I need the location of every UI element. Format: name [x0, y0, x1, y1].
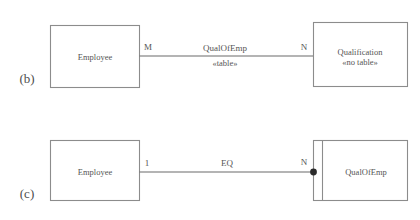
part-b-left-class-box[interactable]: Employee	[51, 26, 140, 88]
part-b-caption: (b)	[19, 71, 34, 86]
part-c-left-class-box[interactable]: Employee	[51, 141, 140, 201]
part-b-right-multiplicity: N	[301, 42, 308, 52]
part-c-left-multiplicity: 1	[145, 158, 150, 168]
class-name-label: Employee	[78, 167, 113, 177]
class-name-label: Qualification	[338, 47, 384, 57]
part-b-association-name: QualOfEmp	[203, 43, 247, 53]
association-end-dot-icon	[310, 169, 317, 176]
part-c-association-name: EQ	[221, 158, 233, 168]
class-stereotype-label: «no table»	[342, 57, 378, 67]
part-b-association-stereotype: «table»	[212, 58, 237, 68]
part-c-caption: (c)	[20, 186, 34, 201]
part-c-group: Employee 1 N EQ QualOfEmp (c)	[20, 141, 408, 202]
part-b-left-multiplicity: M	[144, 42, 152, 52]
class-name-label: QualOfEmp	[345, 167, 387, 177]
diagram-page: Employee M N QualOfEmp «table» Qualifica…	[0, 0, 420, 220]
part-b-right-class-box[interactable]: Qualification «no table»	[314, 23, 408, 87]
part-b-group: Employee M N QualOfEmp «table» Qualifica…	[19, 23, 407, 88]
part-c-right-class-box[interactable]: QualOfEmp	[314, 141, 408, 201]
class-name-label: Employee	[78, 52, 113, 62]
part-c-right-multiplicity: N	[301, 157, 308, 167]
uml-diagram-canvas: Employee M N QualOfEmp «table» Qualifica…	[0, 0, 420, 220]
